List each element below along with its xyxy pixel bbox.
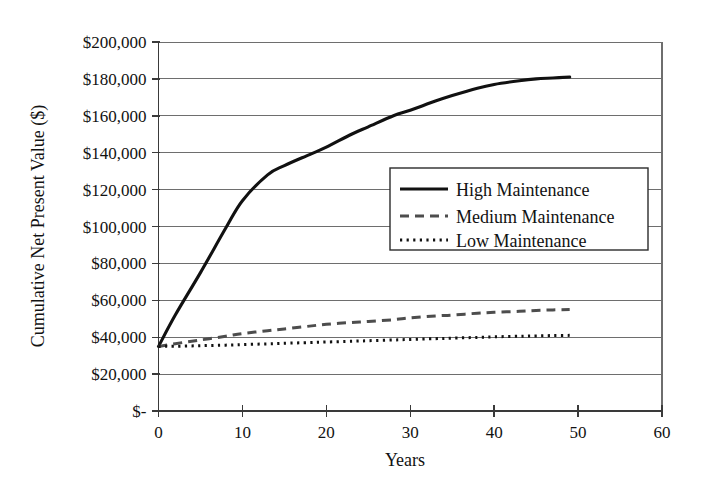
x-axis-tick-label: 0 — [154, 423, 163, 442]
net-present-value-line-chart: $-$20,000$40,000$60,000$80,000$100,000$1… — [0, 0, 702, 495]
y-axis-tick-label: $20,000 — [91, 365, 146, 384]
y-axis-tick-label: $160,000 — [83, 107, 147, 126]
y-axis-tick-label: $140,000 — [83, 144, 147, 163]
x-axis-tick-label: 10 — [234, 423, 251, 442]
chart-container: $-$20,000$40,000$60,000$80,000$100,000$1… — [0, 0, 702, 495]
x-axis-tick-label: 40 — [486, 423, 503, 442]
x-axis-title: Years — [385, 450, 425, 470]
legend-label-medium-maintenance: Medium Maintenance — [456, 207, 614, 227]
x-axis-tick-label: 30 — [402, 423, 419, 442]
x-axis-tick-label: 50 — [570, 423, 587, 442]
legend-label-low-maintenance: Low Maintenance — [456, 231, 586, 251]
y-axis-tick-label: $180,000 — [83, 70, 147, 89]
y-axis-tick-label: $40,000 — [91, 328, 146, 347]
y-axis-tick-labels-group: $-$20,000$40,000$60,000$80,000$100,000$1… — [83, 33, 147, 421]
y-axis-tick-label: $100,000 — [83, 218, 147, 237]
y-axis-tick-label: $200,000 — [83, 33, 147, 52]
y-axis-tick-label: $80,000 — [91, 254, 146, 273]
x-axis-tick-labels-group: 0102030405060 — [154, 423, 670, 442]
chart-legend: High Maintenance Medium Maintenance Low … — [390, 168, 648, 251]
y-axis-tick-label: $60,000 — [91, 291, 146, 310]
x-axis-tick-label: 20 — [318, 423, 335, 442]
x-axis-tick-label: 60 — [654, 423, 671, 442]
y-axis-tick-label: $- — [132, 402, 147, 421]
legend-label-high-maintenance: High Maintenance — [456, 180, 589, 200]
y-axis-title: Cumulative Net Present Value ($) — [28, 105, 49, 348]
y-axis-tick-label: $120,000 — [83, 181, 147, 200]
